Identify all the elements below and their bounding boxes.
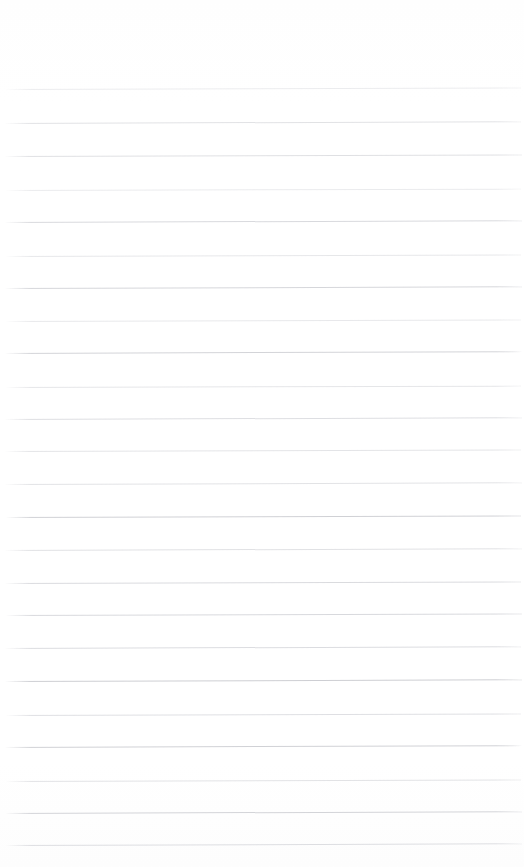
ruled-line [5,286,522,289]
ruled-line [6,713,521,716]
ruled-line [5,121,521,124]
ruled-line [5,679,522,682]
document-page [0,0,524,867]
ruled-line [5,548,522,551]
ruled-line [6,515,521,518]
ruled-line [5,811,522,814]
ruled-line [5,745,522,748]
ruled-line [6,88,521,90]
ruled-line [5,646,521,649]
ruled-line [6,254,521,257]
ruled-line [5,351,522,354]
ruled-line [5,482,522,485]
ruled-line [5,417,522,420]
ruled-line [5,843,522,846]
ruled-line [5,581,521,584]
ruled-line [6,386,521,388]
ruled-line [6,189,521,191]
ruled-line [5,154,522,157]
ruled-line [5,449,521,452]
ruled-line [6,614,522,616]
ruled-line [6,780,521,782]
ruled-line [5,220,522,223]
ruled-lines-container [0,0,524,867]
ruled-line [6,320,521,322]
